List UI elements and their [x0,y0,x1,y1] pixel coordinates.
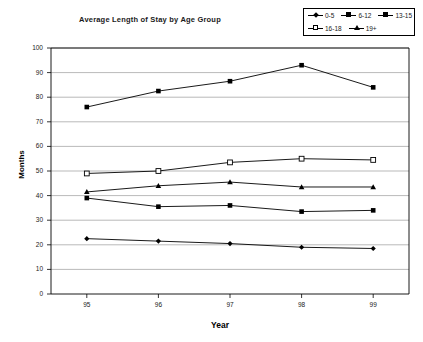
data-point-marker [84,236,89,241]
data-point-marker [228,203,233,208]
series-19+ [84,179,376,194]
data-point-marker [156,169,161,174]
data-point-marker [371,246,376,251]
data-point-marker [299,156,304,161]
data-point-marker [85,196,90,201]
data-point-marker [84,171,89,176]
data-point-marker [156,204,161,209]
data-point-marker [371,85,376,90]
chart-container: Average Length of Stay by Age Group 0-5 … [0,0,423,342]
series-0-5 [84,236,376,251]
data-point-marker [371,158,376,163]
data-point-marker [156,89,161,94]
data-point-marker [156,239,161,244]
data-point-marker [299,63,304,68]
data-point-marker [371,208,376,213]
data-point-marker [227,241,232,246]
series-16-18 [84,156,375,176]
plot-area [0,0,423,342]
series-6-12 [85,196,376,214]
series-13-15 [85,63,376,109]
data-series-layer [84,63,376,251]
data-point-marker [228,160,233,165]
data-point-marker [299,209,304,214]
series-line [87,65,373,107]
data-point-marker [85,105,90,110]
data-point-marker [299,245,304,250]
data-point-marker [228,79,233,84]
